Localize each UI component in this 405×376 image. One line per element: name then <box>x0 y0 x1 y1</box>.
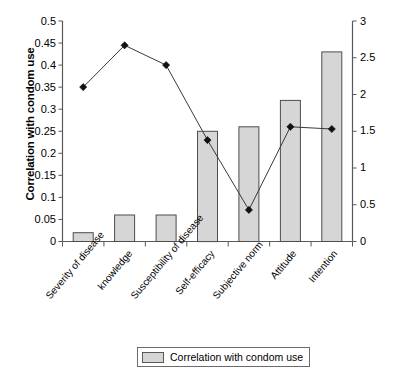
chart-figure: Correlation with condom use Messages in … <box>0 0 405 376</box>
right-tick-label: 1.5 <box>360 124 400 136</box>
bar-2 <box>156 215 176 242</box>
plot-area <box>0 0 405 376</box>
left-tick-label: 0.5 <box>16 15 56 27</box>
left-tick-label: 0.3 <box>16 103 56 115</box>
bar-5 <box>280 100 300 241</box>
bar-1 <box>115 215 135 242</box>
bar-series <box>73 52 342 242</box>
left-tick-label: 0.05 <box>16 213 56 225</box>
right-tick-label: 2 <box>360 88 400 100</box>
bar-4 <box>239 127 259 242</box>
line-marker-2 <box>163 62 170 69</box>
left-tick-label: 0.4 <box>16 59 56 71</box>
right-tick-label: 0.5 <box>360 198 400 210</box>
left-tick-label: 0 <box>16 235 56 247</box>
right-tick-label: 0 <box>360 235 400 247</box>
bar-6 <box>322 52 342 242</box>
left-tick-label: 0.15 <box>16 169 56 181</box>
legend-swatch-correlation <box>142 352 164 363</box>
legend-label-correlation: Correlation with condom use <box>170 351 303 363</box>
left-tick-label: 0.2 <box>16 147 56 159</box>
right-tick-label: 2.5 <box>360 51 400 63</box>
left-tick-label: 0.35 <box>16 81 56 93</box>
legend: Correlation with condom use <box>137 347 310 367</box>
left-tick-label: 0.1 <box>16 191 56 203</box>
left-tick-label: 0.25 <box>16 125 56 137</box>
right-tick-label: 1 <box>360 161 400 173</box>
right-tick-label: 3 <box>360 15 400 27</box>
left-tick-label: 0.45 <box>16 37 56 49</box>
category-ticks <box>63 242 353 247</box>
